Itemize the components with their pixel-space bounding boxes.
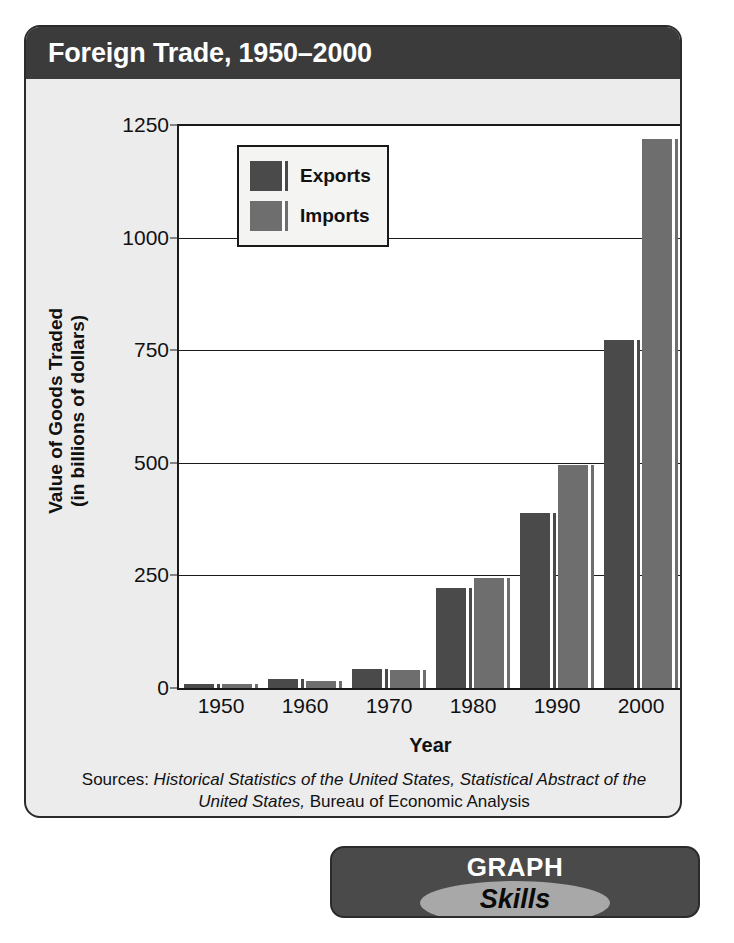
legend-label-imports: Imports: [300, 205, 370, 227]
bar-imports-1980: [474, 578, 510, 688]
bar-imports-1970: [390, 670, 426, 688]
bar-highlight: [298, 679, 301, 688]
bar-exports-2000: [604, 340, 640, 688]
badge-label-graph: GRAPH: [332, 852, 698, 883]
bar-highlight: [214, 684, 217, 689]
legend-swatch-imports: [250, 201, 288, 231]
bar-exports-1970: [352, 669, 388, 688]
y-axis-tick-mark: [170, 688, 179, 689]
sources-note: Sources: Historical Statistics of the Un…: [62, 769, 666, 813]
sources-suffix: Bureau of Economic Analysis: [305, 792, 530, 811]
y-axis-tick-mark: [170, 575, 179, 576]
gridline: [179, 125, 682, 126]
bar-highlight: [504, 578, 507, 688]
y-axis-tick-mark: [170, 237, 179, 238]
y-axis-tick-mark: [170, 350, 179, 351]
x-axis-tick-label: 2000: [618, 694, 665, 718]
plot-area: 025050075010001250 195019601970198019902…: [177, 124, 682, 690]
chart-legend: Exports Imports: [237, 145, 389, 247]
bar-exports-1960: [268, 679, 304, 688]
bar-highlight: [336, 681, 339, 688]
legend-item-exports: Exports: [250, 156, 371, 196]
bar-highlight: [252, 684, 255, 688]
y-axis-tick-mark: [170, 125, 179, 126]
legend-label-exports: Exports: [300, 165, 371, 187]
bar-imports-1960: [306, 681, 342, 688]
y-axis-tick-label: 0: [157, 676, 169, 700]
sources-prefix: Sources:: [82, 770, 154, 789]
bar-imports-1950: [222, 684, 258, 688]
legend-swatch-exports: [250, 161, 288, 191]
chart-card: Foreign Trade, 1950–2000 Value of Goods …: [24, 25, 682, 818]
bar-imports-1990: [558, 465, 594, 688]
y-axis-tick-label: 1250: [122, 113, 169, 137]
bar-highlight: [420, 670, 423, 688]
bar-exports-1990: [520, 513, 556, 688]
bar-exports-1950: [184, 684, 220, 689]
y-axis-tick-mark: [170, 462, 179, 463]
graph-skills-badge: GRAPH Skills: [330, 846, 700, 918]
bar-highlight: [550, 513, 553, 688]
y-axis-title: Value of Goods Traded (in billions of do…: [45, 266, 89, 556]
page-title: Foreign Trade, 1950–2000: [26, 38, 372, 69]
bar-highlight: [634, 340, 637, 688]
legend-item-imports: Imports: [250, 196, 371, 236]
bar-highlight: [466, 588, 469, 688]
x-axis-tick-label: 1960: [282, 694, 329, 718]
y-axis-tick-label: 250: [134, 563, 169, 587]
x-axis-tick-label: 1990: [534, 694, 581, 718]
y-axis-title-line-1: Value of Goods Traded: [45, 266, 67, 556]
title-bar: Foreign Trade, 1950–2000: [26, 27, 680, 79]
x-axis-title: Year: [177, 734, 682, 757]
chart-region: Value of Goods Traded (in billions of do…: [26, 79, 682, 818]
bar-exports-1980: [436, 588, 472, 688]
x-axis-tick-label: 1970: [366, 694, 413, 718]
bar-highlight: [672, 139, 675, 688]
y-axis-tick-label: 1000: [122, 226, 169, 250]
badge-label-skills: Skills: [332, 884, 698, 915]
bar-highlight: [588, 465, 591, 688]
y-axis-tick-label: 500: [134, 451, 169, 475]
bar-highlight: [382, 669, 385, 688]
x-axis-tick-label: 1950: [198, 694, 245, 718]
y-axis-title-line-2: (in billions of dollars): [67, 266, 89, 556]
bar-imports-2000: [642, 139, 678, 688]
x-axis-tick-label: 1980: [450, 694, 497, 718]
y-axis-tick-label: 750: [134, 338, 169, 362]
